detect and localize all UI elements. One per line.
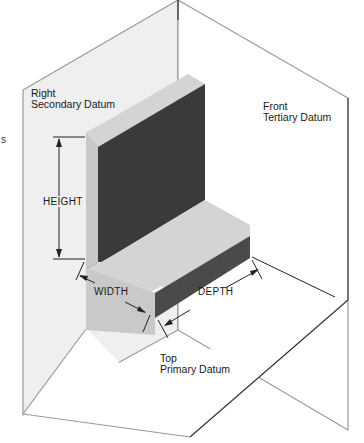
- right-datum-subtitle: Secondary Datum: [31, 99, 115, 110]
- top-datum-subtitle: Primary Datum: [160, 364, 230, 375]
- depth-label: DEPTH: [198, 286, 233, 297]
- top-datum-label: Top Primary Datum: [160, 353, 230, 375]
- stray-glyph: s: [1, 134, 6, 145]
- block-inner-left-strip: [86, 133, 98, 268]
- datum-planes-diagram: [0, 0, 364, 443]
- width-label: WIDTH: [94, 286, 128, 297]
- height-label: HEIGHT: [43, 196, 83, 207]
- front-datum-subtitle: Tertiary Datum: [263, 112, 331, 123]
- right-datum-label: Right Secondary Datum: [31, 88, 115, 110]
- front-datum-label: Front Tertiary Datum: [263, 101, 331, 123]
- top-plane-front-edge: [23, 414, 190, 437]
